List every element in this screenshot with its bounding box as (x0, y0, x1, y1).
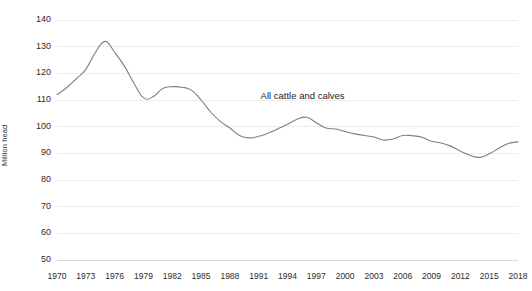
y-axis-tick-label: 100 (21, 122, 51, 131)
y-axis-tick-label: 80 (21, 175, 51, 184)
x-axis-tick-label: 2018 (498, 272, 532, 281)
y-axis-tick-label: 70 (21, 202, 51, 211)
series-annotation-all-cattle-and-calves: All cattle and calves (261, 91, 345, 101)
y-axis-tick-label: 90 (21, 148, 51, 157)
y-axis-tick-label: 110 (21, 95, 51, 104)
y-axis-tick-label: 60 (21, 228, 51, 237)
gridlines (57, 20, 518, 260)
y-axis-tick-label: 140 (21, 15, 51, 24)
y-axis-tick-label: 120 (21, 68, 51, 77)
y-axis-tick-label: 130 (21, 42, 51, 51)
y-axis-tick-label: 50 (21, 255, 51, 264)
